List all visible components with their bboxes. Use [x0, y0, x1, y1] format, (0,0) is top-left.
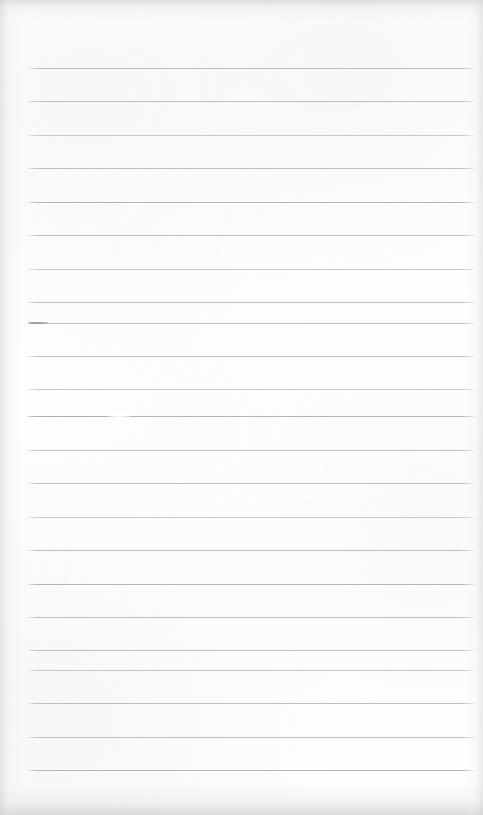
writing-area: [0, 0, 483, 815]
scanned-page: [0, 0, 483, 815]
